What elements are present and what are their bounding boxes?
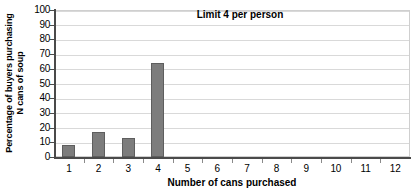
bar bbox=[62, 145, 75, 157]
y-axis-title-line-1: Percentage of buyers purchasing bbox=[4, 13, 15, 152]
x-axis-tick-label: 11 bbox=[361, 163, 371, 175]
x-axis-tick-label: 2 bbox=[96, 163, 101, 175]
chart-title-annotation: Limit 4 per person bbox=[150, 9, 330, 21]
bar bbox=[151, 63, 164, 157]
bar bbox=[92, 132, 105, 157]
bar bbox=[122, 138, 135, 157]
x-axis-tick-label: 4 bbox=[155, 163, 160, 175]
y-axis-tick-label: 90 bbox=[24, 20, 50, 30]
y-axis-tick-label: 30 bbox=[24, 108, 50, 118]
y-axis-tick-label: 0 bbox=[24, 152, 50, 162]
x-axis-tick-label: 3 bbox=[125, 163, 130, 175]
x-axis-tick-label: 7 bbox=[244, 163, 249, 175]
x-axis-tick-labels: 123456789101112 bbox=[54, 163, 410, 177]
y-axis-tick-label: 40 bbox=[24, 93, 50, 103]
x-axis-tick-label: 9 bbox=[303, 163, 308, 175]
y-axis-tick-label: 10 bbox=[24, 137, 50, 147]
x-axis-tick-label: 12 bbox=[390, 163, 401, 175]
x-axis-tick-label: 8 bbox=[274, 163, 279, 175]
x-axis-tick-label: 6 bbox=[214, 163, 219, 175]
x-axis-title: Number of cans purchased bbox=[54, 177, 410, 189]
y-axis-tick-mark bbox=[49, 157, 55, 158]
bar-chart: Percentage of buyers purchasing N cans o… bbox=[0, 0, 419, 192]
y-axis-tick-labels: 0102030405060708090100 bbox=[24, 5, 50, 157]
bar-series bbox=[54, 10, 410, 157]
x-axis-tick-label: 5 bbox=[185, 163, 190, 175]
x-axis-tick-label: 10 bbox=[330, 163, 341, 175]
x-axis-tick-label: 1 bbox=[66, 163, 71, 175]
y-axis-tick-label: 80 bbox=[24, 34, 50, 44]
y-axis-tick-label: 70 bbox=[24, 49, 50, 59]
y-axis-tick-label: 20 bbox=[24, 123, 50, 133]
y-axis-tick-label: 60 bbox=[24, 64, 50, 74]
y-axis-tick-label: 50 bbox=[24, 79, 50, 89]
y-axis-tick-label: 100 bbox=[24, 5, 50, 15]
